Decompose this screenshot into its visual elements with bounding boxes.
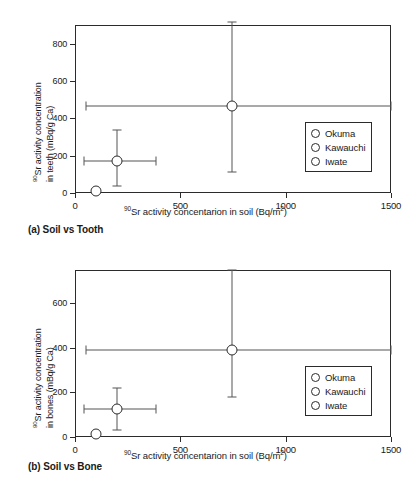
data-point-okuma[interactable]	[226, 344, 237, 355]
open-circle-icon	[311, 401, 320, 410]
x-error-cap	[156, 404, 157, 413]
x-axis-title-b: 90Sr activity concentarion in soil (Bq/m…	[0, 450, 411, 461]
x-tick	[286, 193, 287, 198]
x-axis-title-a: 90Sr activity concentarion in soil (Bq/m…	[0, 206, 411, 217]
y-axis-isotope-superscript-b: 90	[31, 421, 38, 428]
y-error-cap	[227, 396, 236, 397]
x-error-cap	[391, 345, 392, 354]
open-circle-icon	[311, 387, 320, 396]
y-tick	[70, 81, 75, 82]
legend-item-okuma-a[interactable]: Okuma	[311, 126, 365, 140]
open-circle-icon	[311, 373, 320, 382]
y-error-cap	[113, 186, 122, 187]
y-axis-isotope-superscript-a: 90	[31, 175, 38, 182]
y-tick	[70, 44, 75, 45]
legend-label-iwate-a: Iwate	[325, 156, 347, 167]
x-tick	[75, 193, 76, 198]
legend-item-kawauchi-a[interactable]: Kawauchi	[311, 140, 365, 154]
y-tick	[70, 118, 75, 119]
panel-caption-b: (b) Soil vs Bone	[28, 461, 102, 472]
y-tick	[70, 348, 75, 349]
panel-caption-a: (a) Soil vs Tooth	[28, 224, 103, 235]
data-point-kawauchi[interactable]	[112, 403, 123, 414]
y-axis-title-line1-a: Sr activity concentration	[33, 82, 43, 175]
y-tick	[70, 437, 75, 438]
legend-label-kawauchi-b: Kawauchi	[325, 386, 365, 397]
y-error-cap	[227, 172, 236, 173]
y-error-cap	[227, 270, 236, 271]
panel-soil-vs-tooth: 90Sr activity concentration in teeth (mB…	[0, 0, 411, 248]
y-error-cap	[113, 387, 122, 388]
legend-label-okuma-a: Okuma	[325, 128, 355, 139]
y-tick-label: 200	[37, 151, 67, 161]
y-error-bar	[231, 270, 232, 397]
x-error-cap	[84, 157, 85, 166]
y-tick-label: 800	[37, 39, 67, 49]
y-error-cap	[113, 130, 122, 131]
y-tick	[70, 193, 75, 194]
x-axis-title-close-b: )	[284, 450, 287, 461]
y-tick-label: 400	[37, 113, 67, 123]
legend-label-okuma-b: Okuma	[325, 372, 355, 383]
y-error-cap	[227, 22, 236, 23]
data-point-okuma[interactable]	[226, 101, 237, 112]
y-tick-label: 600	[37, 76, 67, 86]
data-point-iwate[interactable]	[91, 186, 102, 197]
legend-item-iwate-b[interactable]: Iwate	[311, 398, 365, 412]
open-circle-icon	[311, 129, 320, 138]
y-error-bar	[231, 22, 232, 172]
x-tick	[75, 437, 76, 442]
y-tick-label: 600	[37, 298, 67, 308]
x-error-cap	[84, 404, 85, 413]
legend-a[interactable]: Okuma Kawauchi Iwate	[305, 122, 372, 172]
legend-item-iwate-a[interactable]: Iwate	[311, 154, 365, 168]
y-error-cap	[113, 429, 122, 430]
legend-b[interactable]: Okuma Kawauchi Iwate	[305, 366, 372, 416]
data-point-kawauchi[interactable]	[112, 156, 123, 167]
y-tick-label: 0	[37, 188, 67, 198]
x-error-bar	[86, 106, 391, 107]
legend-item-kawauchi-b[interactable]: Kawauchi	[311, 384, 365, 398]
x-tick	[391, 437, 392, 442]
x-error-bar	[86, 349, 391, 350]
x-axis-isotope-superscript-a: 90	[124, 205, 131, 212]
y-tick-label: 200	[37, 387, 67, 397]
x-axis-title-text-a: Sr activity concentarion in soil (Bq/m	[131, 206, 280, 217]
y-axis-title-tooth: 90Sr activity concentration	[33, 82, 44, 182]
x-axis-isotope-superscript-b: 90	[124, 449, 131, 456]
y-tick-label: 400	[37, 343, 67, 353]
x-axis-title-text-b: Sr activity concentarion in soil (Bq/m	[131, 450, 280, 461]
x-tick	[180, 437, 181, 442]
x-error-cap	[85, 102, 86, 111]
legend-item-okuma-b[interactable]: Okuma	[311, 370, 365, 384]
legend-label-iwate-b: Iwate	[325, 400, 347, 411]
x-tick	[391, 193, 392, 198]
y-tick	[70, 156, 75, 157]
x-tick	[180, 193, 181, 198]
y-tick	[70, 392, 75, 393]
y-tick-label: 0	[37, 432, 67, 442]
x-error-cap	[85, 345, 86, 354]
x-error-cap	[156, 157, 157, 166]
y-tick	[70, 303, 75, 304]
x-axis-title-close-a: )	[284, 206, 287, 217]
x-tick	[286, 437, 287, 442]
open-circle-icon	[311, 157, 320, 166]
data-point-iwate[interactable]	[91, 428, 102, 439]
open-circle-icon	[311, 143, 320, 152]
legend-label-kawauchi-a: Kawauchi	[325, 142, 365, 153]
x-error-cap	[391, 102, 392, 111]
panel-soil-vs-bone: 90Sr activity concentration in bones (mB…	[0, 246, 411, 489]
